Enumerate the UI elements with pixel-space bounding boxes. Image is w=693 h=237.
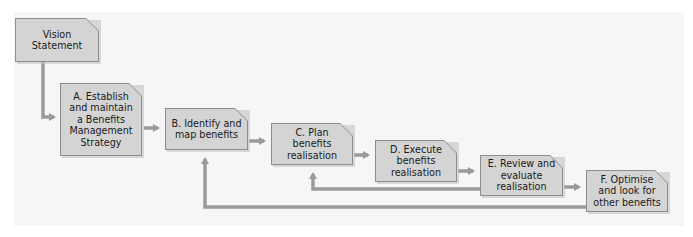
node-e-review-evaluate: E. Review and evaluate realisation	[480, 155, 563, 196]
node-c-plan-realisation: C. Plan benefits realisation	[271, 123, 353, 165]
node-a-benefits-strategy: A. Establish and maintain a Benefits Man…	[60, 83, 142, 156]
node-label: C. Plan benefits realisation	[282, 127, 342, 162]
node-label: Vision Statement	[30, 29, 84, 52]
node-d-execute-realisation: D. Execute benefits realisation	[375, 140, 457, 182]
node-label: D. Execute benefits realisation	[386, 144, 446, 179]
node-label: B. Identify and map benefits	[171, 118, 243, 141]
node-f-optimise: F. Optimise and look for other benefits	[586, 170, 668, 212]
node-b-identify-benefits: B. Identify and map benefits	[165, 108, 248, 150]
node-label: E. Review and evaluate realisation	[486, 158, 558, 193]
node-vision-statement: Vision Statement	[15, 18, 99, 62]
node-label: A. Establish and maintain a Benefits Man…	[65, 91, 137, 149]
node-label: F. Optimise and look for other benefits	[590, 174, 664, 209]
